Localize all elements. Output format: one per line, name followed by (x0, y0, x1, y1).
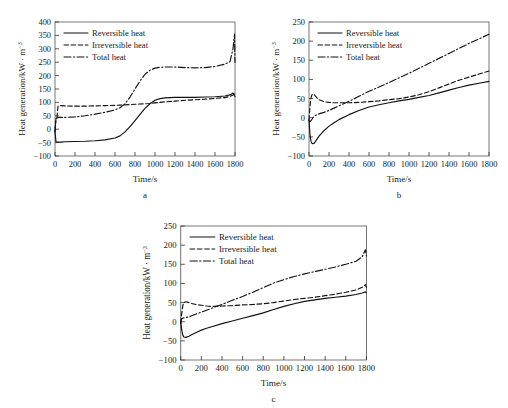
chart-a-ytick: 150 (38, 85, 51, 94)
chart-a-ytick: 300 (38, 45, 51, 54)
chart-b-xtick: 1600 (461, 160, 478, 169)
chart-b-xtick: 1800 (481, 160, 498, 169)
chart-c-ylabel: Heat generation/kW · m−3 (141, 246, 152, 340)
chart-b-xtick: 1400 (441, 160, 458, 169)
chart-a-xtick: 1800 (227, 160, 244, 169)
chart-panel-c: 020040060080010001200140016001800−100−50… (124, 204, 386, 408)
chart-c-xtick: 0 (179, 363, 183, 373)
chart-c-series-irreversible-heat (181, 285, 367, 323)
chart-c-ytick: 200 (164, 240, 177, 250)
chart-b-xtick: 0 (307, 160, 311, 169)
chart-b-ytick: 0 (301, 114, 305, 123)
chart-c-letter: c (272, 394, 276, 404)
chart-a-curves (55, 34, 235, 142)
chart-c-xtick: 1400 (316, 363, 333, 373)
chart-c-svg: 020040060080010001200140016001800−100−50… (124, 204, 386, 408)
chart-b-xtick: 200 (323, 160, 336, 169)
chart-c-xtick: 200 (195, 363, 208, 373)
chart-c-ytick: −50 (163, 336, 177, 346)
chart-c-ytick: 0 (172, 317, 176, 327)
figure-heat-generation: 020040060080010001200140016001800−100−50… (0, 0, 508, 408)
chart-b-ytick: −50 (292, 133, 305, 142)
chart-c-legend: Reversible heatIrreversible heatTotal he… (190, 232, 277, 266)
chart-c-xtick: 1600 (337, 363, 354, 373)
chart-b-legend-irreversible-label: Irreversible heat (346, 40, 403, 50)
chart-a-ytick: 100 (38, 98, 51, 107)
chart-a-ytick: 200 (38, 72, 51, 81)
chart-b-ytick: 50 (297, 95, 305, 104)
chart-b-ytick: 150 (292, 56, 305, 65)
chart-c-xlabel: Time/s (261, 378, 287, 388)
chart-b-xtick: 800 (383, 160, 396, 169)
chart-a-xlabel: Time/s (133, 174, 158, 184)
chart-a-xtick: 400 (89, 160, 102, 169)
chart-a-ytick: 0 (47, 125, 51, 134)
chart-a-series-irreversible-heat (55, 94, 235, 132)
chart-b-xtick: 400 (343, 160, 356, 169)
chart-a-xtick: 600 (109, 160, 122, 169)
chart-a-legend: Reversible heatIrreversible heatTotal he… (64, 28, 149, 62)
chart-c-xtick: 1200 (296, 363, 313, 373)
chart-a-ytick: −100 (34, 152, 51, 161)
chart-panel-b: 020040060080010001200140016001800−100−50… (254, 0, 508, 204)
chart-a-ylabel: Heat generation/kW · m−3 (16, 42, 27, 136)
chart-a-legend-total-label: Total heat (92, 52, 127, 62)
chart-c-curves (181, 250, 367, 338)
chart-a-series-reversible-heat (55, 93, 235, 142)
chart-a-legend-reversible-label: Reversible heat (92, 28, 146, 38)
chart-b-ytick: 250 (292, 18, 305, 27)
chart-a-xtick: 1000 (147, 160, 164, 169)
chart-a-xtick: 1600 (207, 160, 224, 169)
chart-a-ytick: 350 (38, 31, 51, 40)
chart-c-legend-reversible-label: Reversible heat (219, 232, 274, 242)
chart-a-ytick: 50 (43, 112, 51, 121)
chart-c-series-reversible-heat (181, 292, 367, 338)
chart-b-legend-reversible-label: Reversible heat (346, 28, 400, 38)
chart-b-xlabel: Time/s (387, 174, 412, 184)
chart-b-xtick: 1000 (401, 160, 418, 169)
chart-a-legend-irreversible-label: Irreversible heat (92, 40, 149, 50)
chart-a-ytick: −50 (38, 139, 51, 148)
chart-c-xtick: 1800 (358, 363, 375, 373)
chart-a-xtick: 200 (69, 160, 82, 169)
chart-b-letter: b (397, 190, 402, 200)
chart-b-ytick: −100 (288, 152, 305, 161)
chart-c-xtick: 400 (216, 363, 229, 373)
chart-a-ytick: 400 (38, 18, 51, 27)
chart-panel-a: 020040060080010001200140016001800−100−50… (0, 0, 254, 204)
chart-a-xtick: 800 (129, 160, 142, 169)
chart-b-ytick: 200 (292, 37, 305, 46)
chart-c-ytick: 150 (164, 259, 177, 269)
chart-a-ytick: 250 (38, 58, 51, 67)
chart-b-svg: 020040060080010001200140016001800−100−50… (254, 0, 508, 204)
chart-b-series-reversible-heat (309, 81, 489, 143)
chart-a-xtick: 1400 (187, 160, 204, 169)
chart-a-xtick: 1200 (167, 160, 184, 169)
chart-c-legend-total-label: Total heat (219, 256, 255, 266)
chart-c-xtick: 600 (236, 363, 249, 373)
chart-b-curves (309, 34, 489, 144)
chart-c-ytick: 100 (164, 279, 177, 289)
chart-c-ytick: 250 (164, 221, 177, 231)
chart-c-xtick: 1000 (275, 363, 292, 373)
chart-c-ytick: −100 (159, 355, 177, 365)
chart-a-letter: a (143, 190, 147, 200)
chart-b-ylabel: Heat generation/kW · m−3 (270, 42, 281, 136)
chart-b-xtick: 600 (363, 160, 376, 169)
chart-a-svg: 020040060080010001200140016001800−100−50… (0, 0, 254, 204)
chart-b-ytick: 100 (292, 75, 305, 84)
chart-b-xtick: 1200 (421, 160, 438, 169)
chart-b-legend-total-label: Total heat (346, 52, 381, 62)
chart-c-legend-irreversible-label: Irreversible heat (219, 244, 277, 254)
chart-c-xtick: 800 (257, 363, 270, 373)
chart-c-ytick: 50 (168, 298, 177, 308)
chart-a-xtick: 0 (53, 160, 57, 169)
chart-b-legend: Reversible heatIrreversible heatTotal he… (318, 28, 403, 62)
